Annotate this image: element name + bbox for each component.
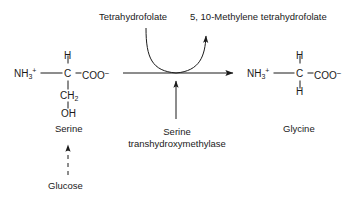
serine-carboxyl-label: COO bbox=[82, 70, 105, 81]
glycine-hydrogen-top: H bbox=[296, 50, 303, 61]
serine-carboxyl-charge: − bbox=[105, 69, 110, 78]
glycine-hydrogen-bottom: H bbox=[296, 86, 303, 97]
serine-amino-group: NH3+ bbox=[14, 68, 32, 82]
glycine-alpha-carbon: C bbox=[296, 68, 303, 79]
serine-name-label: Serine bbox=[55, 123, 82, 134]
glycine-amino-charge: + bbox=[265, 65, 269, 76]
serine-amino-charge: + bbox=[32, 65, 36, 76]
serine-ch2-group: CH2 bbox=[60, 90, 78, 104]
glycine-name-label: Glycine bbox=[283, 123, 315, 134]
enzyme-name-line2: transhydroxymethylase bbox=[113, 138, 241, 149]
serine-ch2-subscript: 2 bbox=[74, 95, 78, 102]
diagram-vector-layer bbox=[0, 0, 363, 205]
glycine-bond-lines bbox=[274, 56, 313, 88]
glycine-amino-label: NH bbox=[247, 68, 261, 79]
serine-alpha-hydrogen: H bbox=[64, 50, 71, 61]
serine-hydroxyl-group: OH bbox=[61, 108, 76, 119]
serine-alpha-carbon: C bbox=[64, 68, 71, 79]
glycine-carboxyl-label: COO bbox=[314, 70, 337, 81]
tetrahydrofolate-label: Tetrahydrofolate bbox=[99, 11, 167, 22]
serine-carboxyl-group: COO− bbox=[82, 68, 109, 81]
reaction-diagram: NH3+ H C COO− CH2 OH Serine Glucose Tetr… bbox=[0, 0, 363, 205]
glycine-carboxyl-group: COO− bbox=[314, 68, 341, 81]
enzyme-name-line1: Serine bbox=[113, 126, 241, 137]
cofactor-curved-arrow bbox=[146, 28, 206, 73]
methylene-tetrahydrofolate-label: 5, 10-Methylene tetrahydrofolate bbox=[190, 11, 327, 22]
glucose-label: Glucose bbox=[48, 180, 83, 191]
serine-ch2-label: CH bbox=[60, 90, 74, 101]
glycine-carboxyl-charge: − bbox=[337, 69, 342, 78]
serine-amino-label: NH bbox=[14, 68, 28, 79]
glycine-amino-group: NH3+ bbox=[247, 68, 265, 82]
